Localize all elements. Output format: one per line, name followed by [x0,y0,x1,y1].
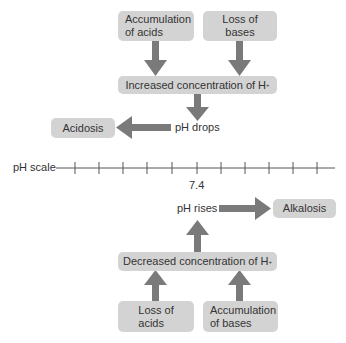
arrow-left-icon [116,116,171,139]
arrow-down-icon [144,41,167,76]
ph-scale-label: pH scale [13,161,56,173]
arrow-down-icon [186,94,209,121]
cause-accumulation-of-bases: Accumulation of bases [203,301,278,332]
cause-text-line1: Accumulation [210,304,276,317]
ph-scale-line [56,162,335,174]
cause-text-line1: Accumulation [125,13,191,26]
arrow-up-icon [186,220,209,252]
result-text: Alkalosis [283,202,326,215]
cause-text-line2: of bases [210,317,276,330]
effect-increased-h-concentration: Increased concentration of H+ [118,76,277,94]
effect-decreased-h-concentration: Decreased concentration of H+ [118,252,277,271]
result-acidosis: Acidosis [51,118,115,138]
cause-text-line2: bases [222,26,257,39]
cause-text-line2: of acids [125,26,191,39]
arrow-right-icon [219,197,271,220]
ph-drops-label: pH drops [175,121,220,133]
cause-text-line1: Loss of [138,304,173,317]
cause-loss-of-bases: Loss of bases [203,11,277,41]
ph-center-value: 7.4 [189,179,204,191]
cause-accumulation-of-acids: Accumulation of acids [118,11,194,41]
effect-text: Decreased concentration of H [123,255,269,268]
effect-text: Increased concentration of H [125,79,266,92]
arrow-down-icon [228,41,251,76]
arrow-up-icon [228,270,251,302]
result-alkalosis: Alkalosis [273,199,336,218]
cause-loss-of-acids: Loss of acids [118,301,194,332]
result-text: Acidosis [63,122,104,135]
arrow-up-icon [144,270,167,302]
cause-text-line1: Loss of [222,13,257,26]
ph-rises-label: pH rises [177,202,217,214]
cause-text-line2: acids [138,317,173,330]
